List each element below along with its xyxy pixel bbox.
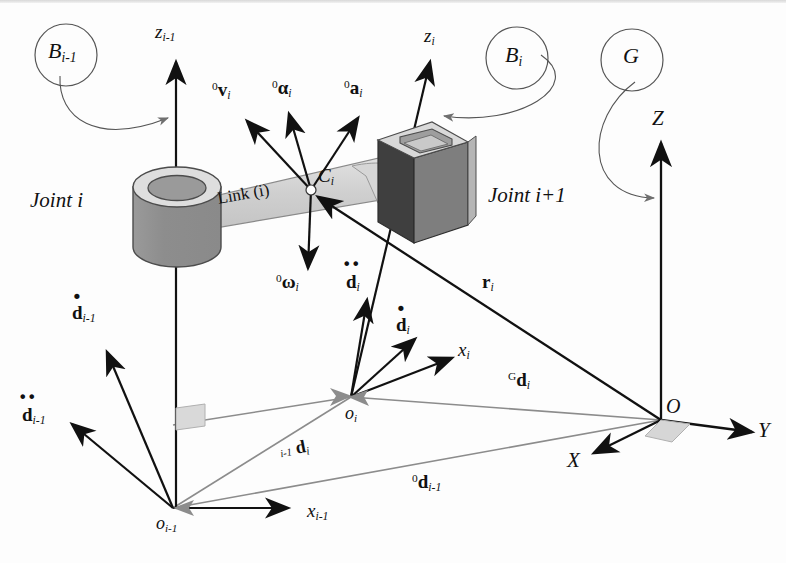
vector-label-0-v-i: 0vi bbox=[212, 80, 230, 102]
vector-dot-d-i-prev bbox=[107, 352, 173, 508]
joint-i-plus-1-box bbox=[378, 122, 476, 243]
vector-label-0-alpha-i: 0αi bbox=[272, 78, 292, 100]
axis-label-x-cur: xi bbox=[458, 340, 470, 362]
vector-label-global-d-i: Gdi bbox=[508, 370, 530, 392]
body-label-joint-i-plus-1: Joint i+1 bbox=[488, 185, 566, 206]
vector-label-ddot-d-i-prev: di-1 bbox=[22, 405, 46, 427]
axis-label-global-Z: Z bbox=[652, 108, 664, 129]
vector-label-dot-d-i-prev: di-1 bbox=[72, 303, 96, 325]
axis-label-global-X: X bbox=[567, 450, 580, 471]
body-label-joint-i: Joint i bbox=[30, 190, 83, 211]
diagram-svg bbox=[0, 0, 786, 563]
vector-ddot-d-i-prev bbox=[72, 424, 173, 508]
vector-r-i bbox=[318, 197, 661, 420]
vector-label-0-a-i: 0ai bbox=[344, 78, 362, 100]
point-label-global-origin: O bbox=[666, 396, 680, 416]
axis-label-z-cur: zi bbox=[424, 26, 435, 48]
axis-label-global-Y: Y bbox=[758, 420, 770, 441]
vector-label-0-omega-i: 0ωi bbox=[276, 272, 299, 294]
figure-canvas: Bi-1 Bi G zi-1 zi xi-1 xi Z Y X Joint i … bbox=[0, 0, 786, 563]
vector-dot-d-i bbox=[351, 339, 415, 397]
point-label-origin-i-prev: oi-1 bbox=[156, 514, 177, 534]
joint-i-cylinder bbox=[133, 167, 221, 267]
right-angle-marker-prev bbox=[176, 404, 205, 430]
point-label-center-of-mass: Ci bbox=[318, 166, 334, 188]
center-of-mass-point bbox=[306, 185, 316, 195]
frame-label-B-cur: Bi bbox=[505, 44, 522, 68]
vector-label-ddot-d-i: di bbox=[346, 272, 360, 294]
vector-label-r-i: ri bbox=[482, 272, 494, 294]
frame-label-G: G bbox=[623, 45, 639, 67]
point-label-origin-i: oi bbox=[345, 404, 357, 424]
frame-label-B-prev: Bi-1 bbox=[48, 40, 77, 64]
axis-label-x-prev: xi-1 bbox=[307, 501, 329, 523]
vector-label-dot-d-i: di bbox=[396, 315, 410, 337]
vector-ddot-d-i bbox=[351, 300, 367, 397]
axis-label-z-prev: zi-1 bbox=[155, 22, 175, 44]
vector-label-zero-d-i-prev: 0di-1 bbox=[412, 472, 441, 494]
vectors-at-origin-i-prev bbox=[72, 352, 288, 508]
